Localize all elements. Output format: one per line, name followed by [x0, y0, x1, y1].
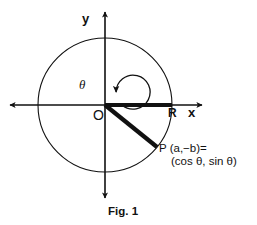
terminal-side-ray: [105, 105, 157, 147]
y-axis-label: y: [82, 12, 89, 27]
figure-caption: Fig. 1: [108, 205, 138, 218]
angle-theta-label: θ: [79, 78, 85, 93]
point-p-line2: (cos θ, sin θ): [159, 155, 237, 168]
origin-label: O: [93, 107, 104, 123]
radius-label-r: R: [168, 107, 177, 121]
figure-container: y x R O θ P (a,−b)= (cos θ, sin θ) Fig. …: [0, 0, 257, 225]
x-axis-label: x: [188, 106, 195, 121]
point-p-line1: P (a,−b)=: [159, 142, 207, 154]
unit-circle-diagram: [0, 0, 257, 225]
point-p-label: P (a,−b)= (cos θ, sin θ): [159, 142, 237, 168]
